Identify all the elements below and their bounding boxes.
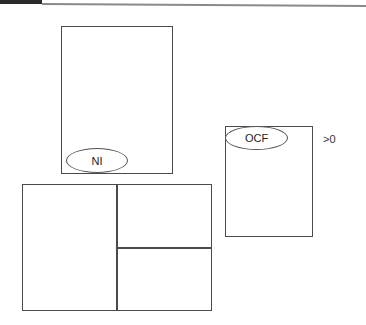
top-divider-line <box>42 3 366 7</box>
top-bar-block <box>0 0 42 4</box>
ni-ellipse: NI <box>66 148 128 173</box>
split-box-horizontal-divider <box>117 247 212 249</box>
ni-label: NI <box>92 155 103 167</box>
ocf-label: OCF <box>245 132 268 144</box>
ocf-ellipse: OCF <box>225 126 288 150</box>
ocf-annotation: >0 <box>323 133 336 145</box>
